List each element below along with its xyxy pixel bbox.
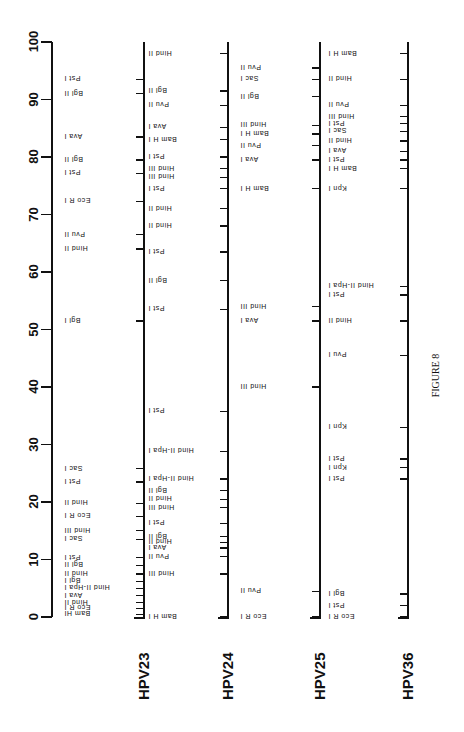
site-label: Pst I — [328, 291, 398, 298]
scale-tick-label: 10 — [26, 544, 41, 574]
site-tick — [220, 127, 228, 128]
site-tick — [400, 593, 408, 594]
site-label: Sac I — [64, 465, 134, 472]
site-tick — [220, 490, 228, 491]
site-tick — [136, 516, 144, 517]
site-label: Pvu II — [148, 553, 218, 560]
site-tick — [136, 573, 144, 574]
site-label: Bgl II — [64, 561, 134, 568]
site-tick — [312, 188, 320, 189]
site-label: Sac I — [328, 127, 398, 134]
site-tick — [220, 309, 228, 310]
scale-tick — [41, 99, 52, 101]
site-tick — [136, 159, 144, 160]
site-tick — [400, 53, 408, 54]
site-tick — [220, 547, 228, 548]
site-tick — [136, 588, 144, 589]
site-tick — [312, 159, 320, 160]
scale-tick — [41, 501, 52, 503]
scale-tick-label: 60 — [26, 257, 41, 287]
site-tick — [136, 557, 144, 558]
scale-tick — [41, 271, 52, 273]
site-tick — [312, 125, 320, 126]
site-tick — [312, 320, 320, 321]
site-label: Pst I — [148, 248, 218, 255]
site-tick — [220, 105, 228, 106]
site-label: Ava I — [148, 544, 218, 551]
site-label: Bgl I — [328, 590, 398, 597]
scale-tick-label: 80 — [26, 142, 41, 172]
site-label: Hind II — [64, 245, 134, 252]
site-tick — [220, 156, 228, 157]
map-line-hpv23 — [143, 42, 145, 618]
map-base — [134, 617, 145, 619]
site-label: Pst I — [328, 156, 398, 163]
site-label: Pst I — [328, 475, 398, 482]
site-label: Bam H I — [328, 165, 398, 172]
site-tick — [312, 67, 320, 68]
scale-tick — [41, 386, 52, 388]
site-tick — [220, 523, 228, 524]
site-label: Eco R I — [64, 512, 134, 519]
site-tick — [220, 208, 228, 209]
site-label: Pvu II — [328, 101, 398, 108]
site-label: Hind II-Hpa I — [148, 475, 218, 482]
site-label: Hind II — [64, 570, 134, 577]
site-label: Ava I — [64, 133, 134, 140]
site-tick — [312, 133, 320, 134]
site-tick — [136, 173, 144, 174]
site-tick — [400, 478, 408, 479]
site-tick — [312, 306, 320, 307]
scale-tick-label: 40 — [26, 372, 41, 402]
site-label: Sac I — [240, 75, 310, 82]
site-tick — [400, 427, 408, 428]
site-label: Hind II-Hpa I — [64, 584, 134, 591]
map-title-hpv23: HPV23 — [135, 652, 152, 700]
site-tick — [400, 294, 408, 295]
site-tick — [400, 131, 408, 132]
site-tick — [136, 539, 144, 540]
site-tick — [136, 468, 144, 469]
site-label: Pvu II — [148, 101, 218, 108]
site-tick — [400, 188, 408, 189]
site-label: Ava I — [240, 317, 310, 324]
site-label: Hind III — [148, 173, 218, 180]
scale-tick-label: 50 — [26, 314, 41, 344]
site-tick — [220, 53, 228, 54]
site-label: Ava I — [328, 147, 398, 154]
scale-tick-label: 100 — [26, 27, 41, 57]
site-tick — [400, 123, 408, 124]
site-label: Bgl I — [64, 577, 134, 584]
site-tick — [312, 591, 320, 592]
site-label: Bgl II — [148, 487, 218, 494]
site-tick — [400, 355, 408, 356]
site-tick — [220, 139, 228, 140]
site-tick — [136, 530, 144, 531]
site-label: Hind II — [328, 75, 398, 82]
site-label: Pst I — [328, 455, 398, 462]
site-label: Pst I — [64, 75, 134, 82]
site-tick — [136, 320, 144, 321]
site-tick — [220, 507, 228, 508]
site-label: Hind II — [328, 137, 398, 144]
site-tick — [400, 605, 408, 606]
site-label: Ava I — [240, 156, 310, 163]
site-label: Hind III — [240, 303, 310, 310]
site-label: Pst I — [328, 120, 398, 127]
site-tick — [312, 145, 320, 146]
site-tick — [136, 565, 144, 566]
scale-tick-label: 0 — [26, 602, 41, 632]
site-label: Pst I — [148, 153, 218, 160]
scale-tick — [41, 559, 52, 561]
site-label: Eco R I — [240, 613, 310, 620]
site-label: Bgl II — [148, 277, 218, 284]
site-label: Bgl II — [148, 87, 218, 94]
site-label: Pst I — [328, 602, 398, 609]
site-label: Eco R I — [64, 197, 134, 204]
map-line-hpv36 — [407, 42, 409, 618]
site-tick — [136, 248, 144, 249]
site-label: Pst I — [64, 169, 134, 176]
site-tick — [220, 478, 228, 479]
site-label: Hind III — [148, 165, 218, 172]
figure-caption: FIGURE 8 — [430, 336, 441, 416]
